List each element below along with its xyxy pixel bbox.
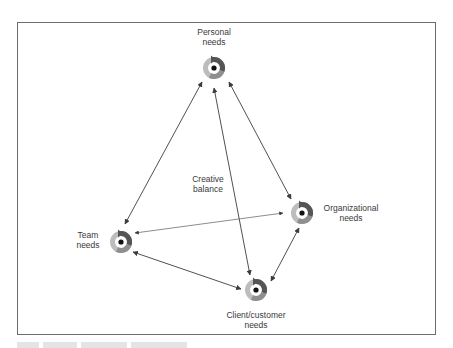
figure-caption-cutoff bbox=[17, 342, 217, 348]
node-label-personal: Personal needs bbox=[184, 27, 244, 47]
center-label: Creative balance bbox=[186, 174, 230, 194]
edge-team-organizational bbox=[135, 213, 283, 233]
client-cycle-icon bbox=[248, 278, 265, 299]
edge-team-client bbox=[133, 252, 241, 289]
organizational-cycle-icon bbox=[294, 201, 311, 222]
node-label-organizational: Organizational needs bbox=[318, 203, 384, 223]
personal-cycle-icon bbox=[206, 56, 223, 77]
caption-text-fragment bbox=[17, 342, 187, 348]
edge-personal-team bbox=[125, 82, 202, 224]
edge-personal-organizational bbox=[229, 82, 291, 199]
team-cycle-icon bbox=[113, 230, 130, 251]
node-label-client: Client/customer needs bbox=[220, 310, 292, 330]
edge-organizational-client bbox=[271, 228, 299, 281]
node-label-team: Team needs bbox=[70, 230, 106, 250]
